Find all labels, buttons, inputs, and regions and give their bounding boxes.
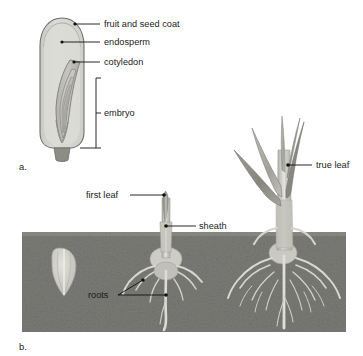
label-roots: roots [88, 290, 109, 300]
leader-dot-sheath [164, 224, 168, 228]
label-endosperm: endosperm [104, 37, 150, 47]
leader-dot-cotyledon [72, 60, 75, 63]
stage3-lower-sheath [276, 200, 293, 248]
figure-canvas: fruit and seed coat endosperm cotyledon … [0, 0, 363, 356]
leader-dot-first-leaf [162, 193, 166, 197]
panel-label-b: b. [19, 341, 27, 352]
label-first-leaf: first leaf [86, 190, 119, 200]
leader-dot-endosperm [60, 40, 63, 43]
label-fruit-and-seed-coat: fruit and seed coat [104, 19, 180, 29]
label-true-leaf: true leaf [316, 160, 350, 170]
seed-stalk-stub [54, 148, 70, 162]
soil-surface-line [22, 232, 346, 236]
label-sheath: sheath [199, 221, 227, 231]
panel-label-a: a. [19, 161, 27, 172]
leader-dot-roots-horizontal [164, 293, 168, 297]
leader-dot-fruit-seed-coat [73, 22, 76, 25]
label-embryo: embryo [104, 108, 135, 118]
leader-dot-roots-diagonal [141, 278, 145, 282]
leader-dot-true-leaf [286, 163, 290, 167]
label-cotyledon: cotyledon [104, 57, 143, 67]
figure-monocot-germination: fruit and seed coat endosperm cotyledon … [0, 0, 363, 356]
